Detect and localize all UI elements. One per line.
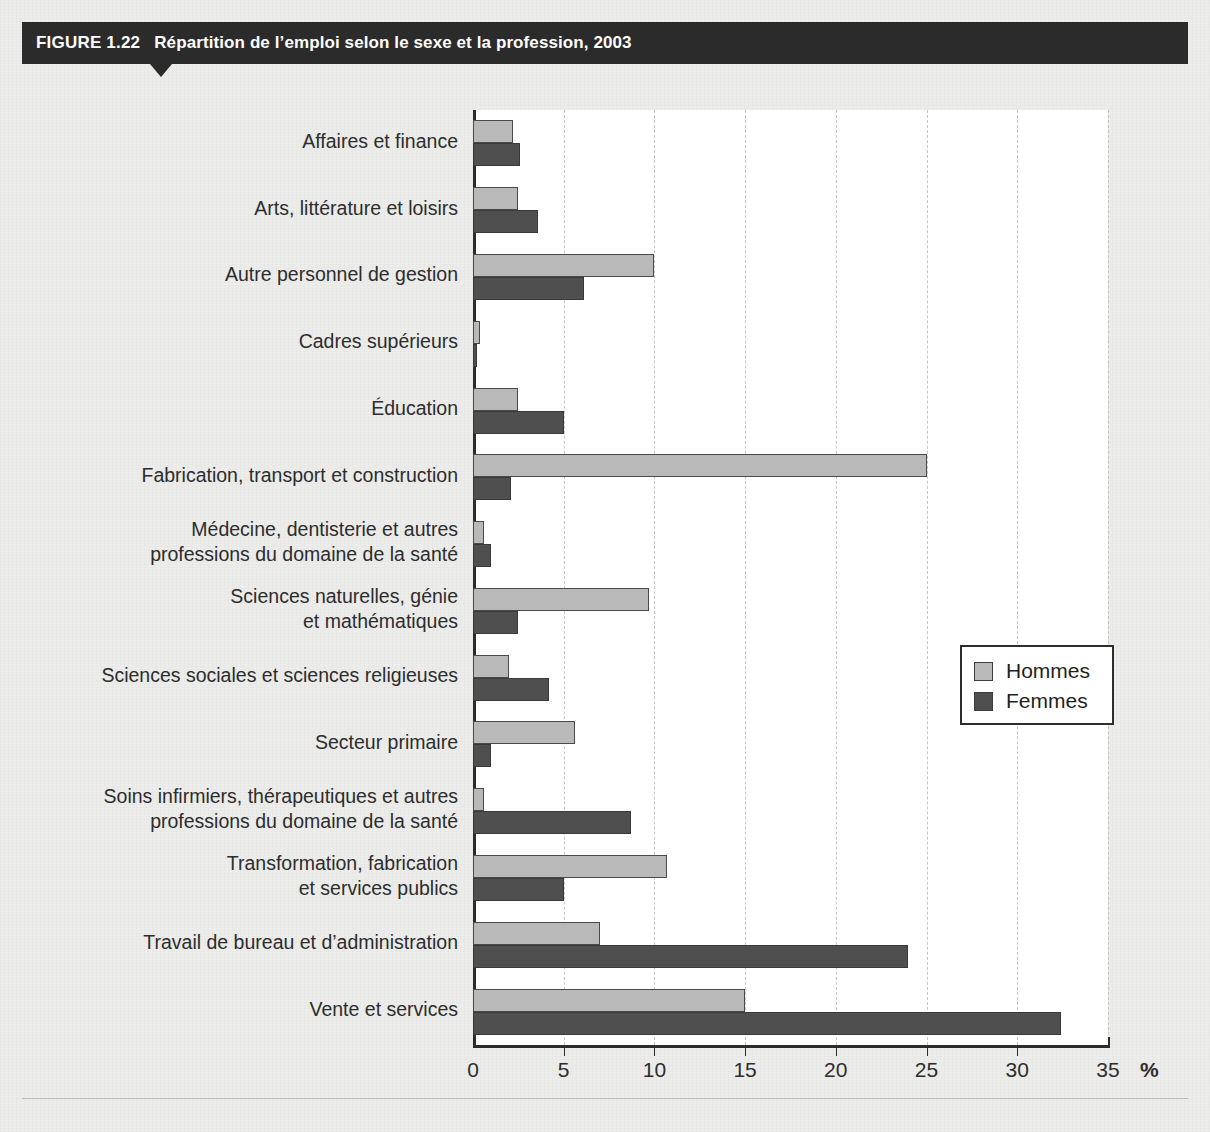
legend-item-femmes: Femmes	[974, 686, 1112, 716]
bar-femmes	[473, 678, 549, 701]
category-label: Vente et services	[0, 997, 473, 1022]
bar-femmes	[473, 210, 538, 233]
x-tick-label-10: 10	[643, 1058, 666, 1082]
x-tick-label-35: 35	[1096, 1058, 1119, 1082]
category-label: Travail de bureau et d’administration	[0, 930, 473, 955]
bar-femmes	[473, 744, 491, 767]
bar-femmes	[473, 1012, 1061, 1035]
category-label: Fabrication, transport et construction	[0, 463, 473, 488]
x-axis-unit-label: %	[1140, 1058, 1159, 1082]
gridline-5	[564, 110, 565, 1045]
tick-0	[473, 1037, 475, 1048]
plot-area	[473, 110, 1108, 1045]
category-label-text: Secteur primaire	[0, 730, 458, 755]
bar-femmes	[473, 611, 518, 634]
figure-number: FIGURE 1.22	[36, 33, 140, 53]
bar-femmes	[473, 945, 908, 968]
category-label-text: Médecine, dentisterie et autres professi…	[0, 517, 458, 567]
x-tick-label-15: 15	[733, 1058, 756, 1082]
bar-hommes	[473, 187, 518, 210]
category-label: Cadres supérieurs	[0, 329, 473, 354]
bar-hommes	[473, 254, 654, 277]
bar-femmes	[473, 477, 511, 500]
tick-10	[654, 1048, 655, 1056]
bar-hommes	[473, 788, 484, 811]
tick-15	[745, 1048, 746, 1056]
bar-hommes	[473, 989, 745, 1012]
title-notch-triangle	[150, 64, 172, 77]
legend-label-femmes: Femmes	[1006, 689, 1088, 713]
bar-hommes	[473, 321, 480, 344]
category-label: Sciences naturelles, génie et mathématiq…	[0, 584, 473, 634]
category-label: Autre personnel de gestion	[0, 262, 473, 287]
bar-hommes	[473, 588, 649, 611]
figure-title: Répartition de l’emploi selon le sexe et…	[154, 33, 631, 53]
bar-femmes	[473, 811, 631, 834]
bar-femmes	[473, 143, 520, 166]
legend-swatch-hommes	[974, 662, 993, 681]
bar-hommes	[473, 655, 509, 678]
gridline-10	[654, 110, 655, 1045]
figure-title-bar: FIGURE 1.22 Répartition de l’emploi selo…	[22, 22, 1188, 64]
category-label: Affaires et finance	[0, 129, 473, 154]
gridline-20	[836, 110, 837, 1045]
gridline-30	[1017, 110, 1018, 1045]
tick-5	[564, 1048, 565, 1056]
gridline-35	[1108, 110, 1109, 1045]
bar-hommes	[473, 454, 927, 477]
category-label-text: Soins infirmiers, thérapeutiques et autr…	[0, 784, 458, 834]
category-label: Arts, littérature et loisirs	[0, 196, 473, 221]
tick-25	[927, 1048, 928, 1056]
x-tick-label-5: 5	[558, 1058, 570, 1082]
category-label: Secteur primaire	[0, 730, 473, 755]
category-label-text: Transformation, fabrication et services …	[0, 851, 458, 901]
figure-page: FIGURE 1.22 Répartition de l’emploi selo…	[0, 0, 1210, 1132]
category-label-text: Sciences sociales et sciences religieuse…	[0, 663, 458, 688]
legend: Hommes Femmes	[960, 645, 1114, 725]
category-label-text: Cadres supérieurs	[0, 329, 458, 354]
bar-femmes	[473, 878, 564, 901]
bar-hommes	[473, 721, 575, 744]
legend-label-hommes: Hommes	[1006, 659, 1090, 683]
category-label: Transformation, fabrication et services …	[0, 851, 473, 901]
bar-femmes	[473, 411, 564, 434]
gridline-15	[745, 110, 746, 1045]
category-label: Sciences sociales et sciences religieuse…	[0, 663, 473, 688]
category-label-text: Affaires et finance	[0, 129, 458, 154]
category-label: Éducation	[0, 396, 473, 421]
x-axis-line	[473, 1045, 1108, 1048]
bar-hommes	[473, 922, 600, 945]
category-label-text: Vente et services	[0, 997, 458, 1022]
x-tick-label-20: 20	[824, 1058, 847, 1082]
category-label-text: Travail de bureau et d’administration	[0, 930, 458, 955]
tick-20	[836, 1048, 837, 1056]
bar-femmes	[473, 544, 491, 567]
x-tick-label-0: 0	[467, 1058, 479, 1082]
x-tick-label-25: 25	[915, 1058, 938, 1082]
category-label-text: Éducation	[0, 396, 458, 421]
bar-hommes	[473, 120, 513, 143]
category-label-text: Autre personnel de gestion	[0, 262, 458, 287]
bar-femmes	[473, 344, 477, 367]
tick-30	[1017, 1048, 1018, 1056]
bar-hommes	[473, 521, 484, 544]
bar-hommes	[473, 855, 667, 878]
x-tick-label-30: 30	[1006, 1058, 1029, 1082]
category-label-text: Arts, littérature et loisirs	[0, 196, 458, 221]
bar-femmes	[473, 277, 584, 300]
category-label: Soins infirmiers, thérapeutiques et autr…	[0, 784, 473, 834]
footer-divider	[22, 1098, 1188, 1099]
category-label-text: Sciences naturelles, génie et mathématiq…	[0, 584, 458, 634]
bar-hommes	[473, 388, 518, 411]
category-label: Médecine, dentisterie et autres professi…	[0, 517, 473, 567]
legend-swatch-femmes	[974, 692, 993, 711]
legend-item-hommes: Hommes	[974, 656, 1112, 686]
category-label-text: Fabrication, transport et construction	[0, 463, 458, 488]
gridline-25	[927, 110, 928, 1045]
tick-35	[1108, 1037, 1110, 1048]
